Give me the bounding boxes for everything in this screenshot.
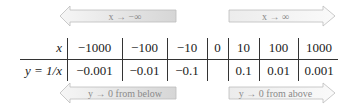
y-value: 0.1 xyxy=(228,63,259,79)
x-value: 10 xyxy=(228,40,259,56)
x-value: −1000 xyxy=(67,40,122,56)
x-value: 0 xyxy=(207,40,228,56)
row-label-y: y = 1/x xyxy=(14,63,62,79)
y-value: −0.001 xyxy=(67,63,122,79)
row-label-x: x xyxy=(20,40,62,56)
y-value: −0.1 xyxy=(167,63,207,79)
x-value: −10 xyxy=(167,40,207,56)
x-value: −100 xyxy=(122,40,167,56)
y-value: 0.01 xyxy=(259,63,298,79)
arrow-label: y → 0 from below xyxy=(73,82,177,104)
arrow-y-to-zero-from-below: y → 0 from below xyxy=(59,82,177,104)
y-value: −0.01 xyxy=(122,63,167,79)
x-value: 1000 xyxy=(298,40,340,56)
y-value: 0.001 xyxy=(298,63,340,79)
x-value: 100 xyxy=(259,40,298,56)
arrow-y-to-zero-from-above: y → 0 from above xyxy=(228,82,336,104)
arrow-label: y → 0 from above xyxy=(228,82,323,104)
